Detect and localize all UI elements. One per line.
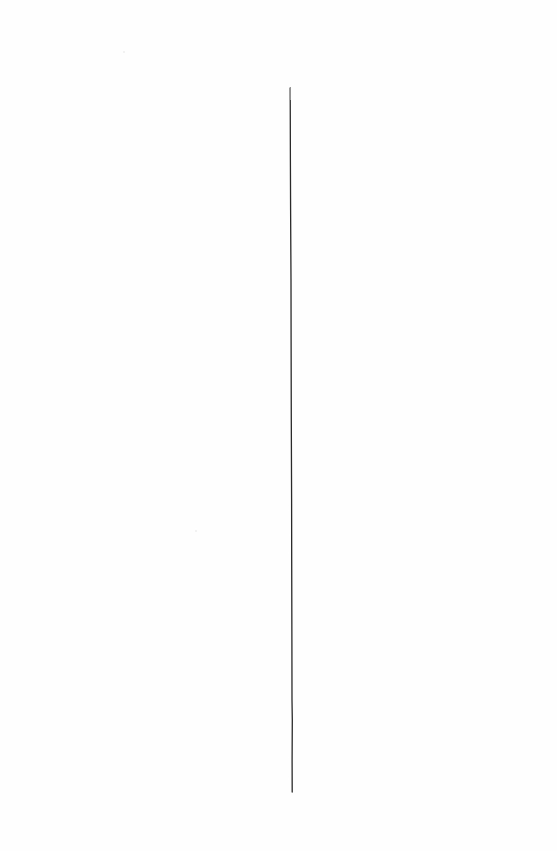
vertical-rule <box>0 0 557 851</box>
scan-speck <box>195 530 197 532</box>
scan-speck <box>123 51 125 53</box>
scanned-page <box>0 0 557 851</box>
